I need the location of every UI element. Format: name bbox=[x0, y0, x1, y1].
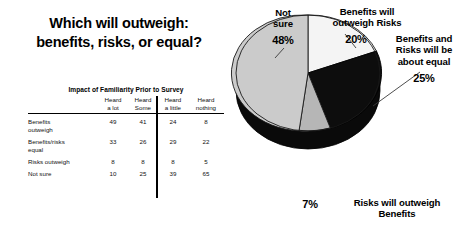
column-header-heard-nothing-line2: nothing bbox=[196, 104, 216, 111]
cell-not-sure-heard-a-little: 39 bbox=[158, 166, 188, 178]
table-row: Not sure 10 25 39 65 bbox=[28, 166, 224, 178]
familiarity-table: Heard a lot Heard Some Heard a little bbox=[28, 96, 224, 179]
table-vertical-divider bbox=[156, 96, 158, 198]
row-label-line1: Benefits bbox=[28, 118, 50, 125]
cell-benefits-outweigh-heard-a-lot: 49 bbox=[98, 114, 128, 135]
row-label-line1: Not sure bbox=[28, 170, 51, 177]
pie-chart: Not sure 48% Benefits will outweigh Risk… bbox=[228, 0, 473, 228]
column-header-heard-a-lot: Heard a lot bbox=[98, 96, 128, 114]
pie-label-equal-line3: about equal bbox=[398, 56, 451, 67]
column-header-heard-a-little-line2: a little bbox=[165, 104, 181, 111]
pie-label-benefits-line1: Benefits will bbox=[340, 6, 395, 17]
title-line-1: Which will outweigh: bbox=[49, 15, 188, 31]
cell-not-sure-heard-some: 25 bbox=[128, 166, 158, 178]
cell-benefits-outweigh-heard-a-little: 24 bbox=[158, 114, 188, 135]
column-header-heard-a-little: Heard a little bbox=[158, 96, 188, 114]
cell-benefits-outweigh-heard-nothing: 8 bbox=[188, 114, 224, 135]
pie-label-benefits-line2: outweigh Risks bbox=[333, 17, 402, 28]
column-header-heard-some: Heard Some bbox=[128, 96, 158, 114]
table-row: Risks outweigh 8 8 8 5 bbox=[28, 154, 224, 166]
table-row: Benefits/risks equal 33 26 29 22 bbox=[28, 134, 224, 154]
column-header-heard-some-line1: Heard bbox=[135, 96, 152, 103]
column-header-heard-some-line2: Some bbox=[135, 104, 151, 111]
pie-label-risks-outweigh-benefits: Risks will outweigh Benefits bbox=[332, 197, 462, 220]
pie-label-not-sure-line1: Not bbox=[275, 7, 291, 18]
row-label-line2: equal bbox=[28, 146, 43, 153]
column-header-heard-a-lot-line1: Heard bbox=[105, 96, 122, 103]
row-label-risks-outweigh: Risks outweigh bbox=[28, 154, 98, 166]
column-header-heard-nothing: Heard nothing bbox=[188, 96, 224, 114]
cell-benefits-risks-equal-heard-a-little: 29 bbox=[158, 134, 188, 154]
row-label-line1: Benefits/risks bbox=[28, 138, 65, 145]
row-label-benefits-outweigh: Benefits outweigh bbox=[28, 114, 98, 135]
cell-risks-outweigh-heard-a-lot: 8 bbox=[98, 154, 128, 166]
cell-risks-outweigh-heard-a-little: 8 bbox=[158, 154, 188, 166]
row-label-line2: outweigh bbox=[28, 126, 53, 133]
row-label-not-sure: Not sure bbox=[28, 166, 98, 178]
pie-label-equal-line1: Benefits and bbox=[396, 33, 452, 44]
pie-label-benefits-risks-equal: Benefits and Risks will be about equal bbox=[376, 33, 472, 67]
table-caption: Impact of Familiarity Prior to Survey bbox=[28, 86, 224, 93]
title-line-2: benefits, risks, or equal? bbox=[12, 33, 226, 52]
row-label-line1: Risks outweigh bbox=[28, 158, 70, 165]
familiarity-table-container: Impact of Familiarity Prior to Survey He… bbox=[28, 86, 224, 179]
column-header-heard-nothing-line1: Heard bbox=[198, 96, 215, 103]
column-header-heard-a-little-line1: Heard bbox=[164, 96, 181, 103]
pie-label-equal-line2: Risks will be bbox=[396, 44, 452, 55]
cell-not-sure-heard-a-lot: 10 bbox=[98, 166, 128, 178]
column-header-rowlabel bbox=[28, 96, 98, 114]
pie-value-not-sure: 48% bbox=[258, 34, 308, 46]
cell-benefits-risks-equal-heard-nothing: 22 bbox=[188, 134, 224, 154]
cell-risks-outweigh-heard-some: 8 bbox=[128, 154, 158, 166]
cell-not-sure-heard-nothing: 65 bbox=[188, 166, 224, 178]
table-row: Benefits outweigh 49 41 24 8 bbox=[28, 114, 224, 135]
pie-label-not-sure: Not sure bbox=[258, 7, 308, 30]
pie-label-risks-line2: Benefits bbox=[378, 208, 415, 219]
pie-label-not-sure-line2: sure bbox=[273, 18, 293, 29]
table-header: Heard a lot Heard Some Heard a little bbox=[28, 96, 224, 114]
cell-risks-outweigh-heard-nothing: 5 bbox=[188, 154, 224, 166]
cell-benefits-risks-equal-heard-some: 26 bbox=[128, 134, 158, 154]
cell-benefits-outweigh-heard-some: 41 bbox=[128, 114, 158, 135]
row-label-benefits-risks-equal: Benefits/risks equal bbox=[28, 134, 98, 154]
pie-value-benefits-risks-equal: 25% bbox=[396, 72, 452, 84]
pie-label-benefits-outweigh-risks: Benefits will outweigh Risks bbox=[313, 6, 421, 29]
slide-canvas: Which will outweigh: benefits, risks, or… bbox=[0, 0, 473, 228]
table-header-row: Heard a lot Heard Some Heard a little bbox=[28, 96, 224, 114]
page-title: Which will outweigh: benefits, risks, or… bbox=[12, 14, 226, 52]
table-body: Benefits outweigh 49 41 24 8 Benefits/ri… bbox=[28, 114, 224, 179]
column-header-heard-a-lot-line2: a lot bbox=[107, 104, 119, 111]
cell-benefits-risks-equal-heard-a-lot: 33 bbox=[98, 134, 128, 154]
pie-value-risks-outweigh-benefits: 7% bbox=[292, 198, 328, 210]
pie-label-risks-line1: Risks will outweigh bbox=[354, 197, 441, 208]
